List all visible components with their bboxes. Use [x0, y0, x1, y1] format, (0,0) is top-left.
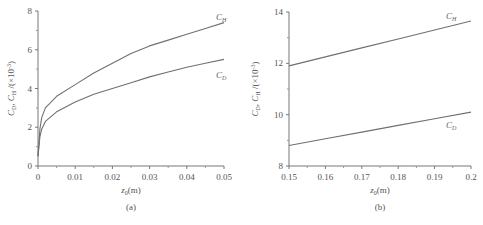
- x-tick-label: 0.19: [427, 172, 443, 182]
- x-tick-label: 0: [36, 172, 41, 182]
- series-line-cd: [38, 59, 224, 156]
- x-tick-label: 0.2: [465, 172, 476, 182]
- x-tick-label: 0.15: [281, 172, 297, 182]
- y-tick-label: 10: [274, 110, 284, 120]
- series-line-cd: [289, 112, 471, 145]
- y-tick-label: 8: [28, 6, 33, 16]
- x-tick-label: 0.18: [390, 172, 406, 182]
- series-label-ch: CH: [446, 11, 457, 22]
- y-tick-label: 0: [28, 161, 33, 171]
- x-tick-label: 0.01: [67, 172, 83, 182]
- y-tick-label: 14: [274, 7, 284, 17]
- x-axis-label: z0(m): [369, 185, 390, 196]
- series-label-cd: CD: [216, 70, 227, 81]
- series-line-ch: [38, 23, 224, 157]
- series-label-ch: CH: [216, 12, 227, 23]
- y-tick-label: 2: [28, 122, 33, 132]
- x-tick-label: 0.05: [216, 172, 232, 182]
- x-tick-label: 0.17: [354, 172, 370, 182]
- x-tick-label: 0.02: [105, 172, 121, 182]
- figure: 00.010.020.030.040.0502468CHCDz0(m)CD, C…: [0, 0, 483, 225]
- y-axis-label: CD, CH /(×10-3): [6, 61, 17, 116]
- x-tick-label: 0.16: [318, 172, 334, 182]
- panel-label-a: (a): [126, 202, 136, 212]
- y-tick-label: 6: [28, 45, 33, 55]
- y-tick-label: 8: [279, 161, 284, 171]
- chart-panel-b: 0.150.160.170.180.190.28101214CHCDz0(m)C…: [250, 7, 477, 212]
- y-axis-label: CD, CH /(×10-3): [250, 61, 261, 116]
- y-tick-label: 12: [274, 58, 283, 68]
- series-label-cd: CD: [446, 120, 457, 131]
- x-tick-label: 0.04: [179, 172, 195, 182]
- series-line-ch: [289, 21, 471, 66]
- panel-label-b: (b): [375, 202, 386, 212]
- x-tick-label: 0.03: [142, 172, 158, 182]
- chart-panel-a: 00.010.020.030.040.0502468CHCDz0(m)CD, C…: [6, 6, 232, 212]
- y-tick-label: 4: [28, 84, 33, 94]
- x-axis-label: z0(m): [120, 185, 141, 196]
